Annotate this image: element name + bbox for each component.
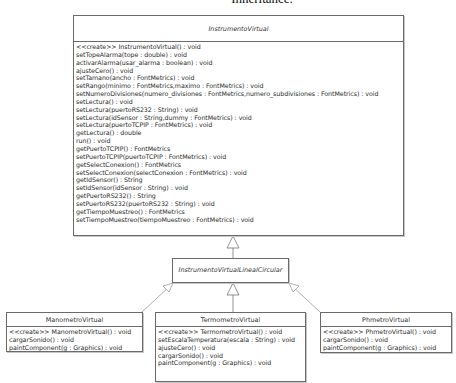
method: paintComponent(g : Graphics) : void — [323, 344, 449, 352]
method: <<create>> InstrumentoVirtual() : void — [76, 43, 401, 51]
method: setTiempoMuestreo(tiempoMuestreo : FontM… — [76, 216, 401, 224]
class-instrumento-virtual[interactable]: InstrumentoVirtual <<create>> Instrument… — [73, 15, 404, 236]
method: getLectura() : double — [76, 129, 401, 137]
method: getIdSensor() : String — [76, 176, 401, 184]
method-list: <<create>> PhmetroVirtual() : void carga… — [321, 327, 451, 352]
method: setIdSensor(idSensor : String) : void — [76, 184, 401, 192]
method: setRango(minimo : FontMetrics,maximo : F… — [76, 82, 401, 90]
method-list: <<create>> InstrumentoVirtual() : void s… — [74, 42, 403, 223]
class-name: InstrumentoVirtual — [74, 16, 403, 42]
method: setTopeAlarma(tope : double) : void — [76, 51, 401, 59]
method: setLectura() : void — [76, 98, 401, 106]
method: cargarSonido() : void — [323, 336, 449, 344]
method: cargarSonido() : void — [9, 336, 140, 344]
class-instrumento-virtual-lineal-circular[interactable]: InstrumentoVirtualLinealCircular — [172, 258, 289, 283]
method: paintComponent(g : Graphics) : void — [158, 359, 303, 367]
method: setTamano(ancho : FontMetrics) : void — [76, 74, 401, 82]
class-name: ManometroVirtual — [7, 313, 142, 327]
method: run() : void — [76, 137, 401, 145]
method: setLectura(puertoRS232 : String) : void — [76, 106, 401, 114]
method: activarAlarma(usar_alarma : boolean) : v… — [76, 59, 401, 67]
method: paintComponent(g : Graphics) : void — [9, 344, 140, 352]
generalization-arrow-icon — [227, 283, 239, 295]
method: getPuertoRS232() : String — [76, 192, 401, 200]
method-list: <<create>> TermometroVirtual() : void se… — [156, 327, 305, 367]
method: setLectura(puertoTCPIP : FontMetrics) : … — [76, 121, 401, 129]
method-list: <<create>> ManometroVirtual() : void car… — [7, 327, 142, 352]
class-termometro-virtual[interactable]: TermometroVirtual <<create>> TermometroV… — [155, 312, 306, 382]
method: setLectura(idSensor : String,dummy : Fon… — [76, 114, 401, 122]
class-name: TermometroVirtual — [156, 313, 305, 327]
method: getPuertoTCPIP() : FontMetrics — [76, 145, 401, 153]
method: setPuertoTCPIP(puertoTCPIP : FontMetrics… — [76, 153, 401, 161]
method: <<create>> PhmetroVirtual() : void — [323, 328, 449, 336]
class-phmetro-virtual[interactable]: PhmetroVirtual <<create>> PhmetroVirtual… — [320, 312, 452, 353]
method: <<create>> TermometroVirtual() : void — [158, 328, 303, 336]
class-manometro-virtual[interactable]: ManometroVirtual <<create>> ManometroVir… — [6, 312, 143, 352]
method: ajusteCero() : void — [158, 344, 303, 352]
method: ajusteCero() : void — [76, 67, 401, 75]
class-name: PhmetroVirtual — [321, 313, 451, 327]
method: setSelectConexion(selectConexion : FontM… — [76, 169, 401, 177]
method: getTiempoMuestreo() : FontMetrics — [76, 208, 401, 216]
method: setEscalaTemperatura(escala : String) : … — [158, 336, 303, 344]
method: setPuertoRS232(puertoRS232 : String) : v… — [76, 200, 401, 208]
generalization-arrow-icon — [227, 236, 239, 248]
method: getSelectConexion() : FontMetrics — [76, 161, 401, 169]
method: cargarSonido() : void — [158, 352, 303, 360]
method: setNumeroDivisiones(numero_divisiones : … — [76, 90, 401, 98]
method: <<create>> ManometroVirtual() : void — [9, 328, 140, 336]
class-name: InstrumentoVirtualLinealCircular — [173, 259, 288, 282]
